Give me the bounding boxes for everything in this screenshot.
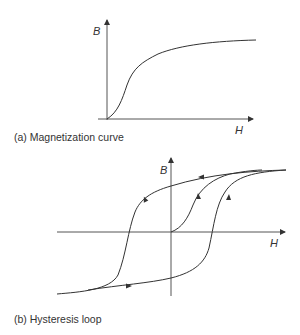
lower-branch — [88, 170, 286, 290]
arrow-right-ascending — [226, 194, 231, 200]
caption-a: (a) Magnetization curve — [14, 131, 124, 143]
magnetization-curve — [107, 40, 256, 119]
hysteresis-loop-figure: B H (b) Hysteresis loop — [14, 158, 286, 325]
caption-b: (b) Hysteresis loop — [14, 313, 102, 325]
x-axis-label: H — [270, 237, 278, 249]
initial-curve — [171, 170, 262, 232]
x-axis-label: H — [235, 124, 243, 136]
magnetization-curve-figure: B H (a) Magnetization curve — [14, 20, 256, 143]
y-axis-label: B — [160, 164, 167, 176]
y-axis-label: B — [93, 25, 100, 37]
diagram-canvas: B H (a) Magnetization curve B H (b) Hyst… — [0, 0, 300, 335]
